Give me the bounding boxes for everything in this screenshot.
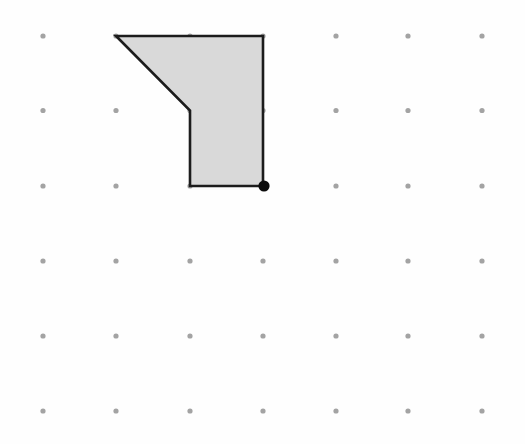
grid-dot-r3-c6 (405, 183, 410, 188)
figure-canvas (0, 0, 525, 444)
grid-dot-r1-c5 (333, 33, 338, 38)
grid-dot-r4-c3 (187, 258, 192, 263)
grid-dot-r4-c6 (405, 258, 410, 263)
grid-dot-r4-c4 (260, 258, 265, 263)
grid-dot-r6-c3 (187, 408, 192, 413)
grid-dot-r5-c1 (40, 333, 45, 338)
grid-dot-r5-c3 (187, 333, 192, 338)
grid-dot-r4-c2 (113, 258, 118, 263)
grid-dot-r6-c4 (260, 408, 265, 413)
grid-dot-r2-c6 (405, 108, 410, 113)
grid-dot-r5-c4 (260, 333, 265, 338)
grid-dot-r2-c5 (333, 108, 338, 113)
grid-dot-r4-c1 (40, 258, 45, 263)
grid-dot-r3-c5 (333, 183, 338, 188)
grid-dot-r6-c2 (113, 408, 118, 413)
shape-layer (116, 36, 263, 186)
grid-dot-r4-c5 (333, 258, 338, 263)
grid-dot-r2-c2 (113, 108, 118, 113)
grid-dot-r6-c7 (479, 408, 484, 413)
geometry-figure (0, 0, 525, 444)
grid-dot-r1-c6 (405, 33, 410, 38)
grid-dot-r3-c7 (479, 183, 484, 188)
grid-dot-r3-c2 (113, 183, 118, 188)
grid-dot-r6-c6 (405, 408, 410, 413)
grid-dot-r1-c1 (40, 33, 45, 38)
highlighted-vertex-marker[interactable] (258, 180, 269, 191)
grid-dot-r2-c7 (479, 108, 484, 113)
grid-dot-r6-c1 (40, 408, 45, 413)
grid-dot-r6-c5 (333, 408, 338, 413)
grid-dot-r5-c2 (113, 333, 118, 338)
grid-dot-r2-c1 (40, 108, 45, 113)
grid-dot-r5-c5 (333, 333, 338, 338)
marker-layer (258, 180, 269, 191)
grid-dot-r1-c7 (479, 33, 484, 38)
grid-dot-r3-c1 (40, 183, 45, 188)
grid-dot-r5-c6 (405, 333, 410, 338)
grid-dot-r4-c7 (479, 258, 484, 263)
shaded-polygon[interactable] (116, 36, 263, 186)
grid-dot-r5-c7 (479, 333, 484, 338)
